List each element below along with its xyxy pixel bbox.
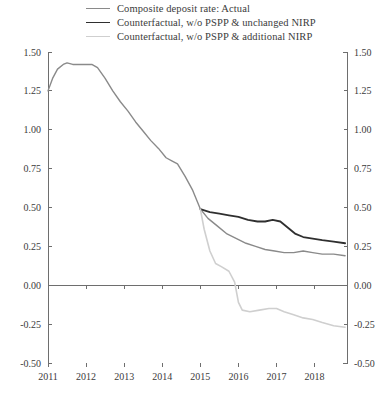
series-line-0 (48, 63, 345, 256)
y-tick-label: 0.00 (24, 280, 42, 291)
y-tick-label: 0.25 (354, 241, 372, 252)
x-tick-label: 2016 (228, 371, 248, 382)
x-tick-label: 2018 (305, 371, 325, 382)
y-tick-label: -0.50 (20, 358, 41, 369)
y-tick-label: 0.75 (354, 163, 372, 174)
line-chart-plot: 1.501.251.000.750.500.250.00-0.25-0.50 1… (0, 0, 389, 394)
y-tick-label: 1.50 (24, 47, 42, 58)
y-axis-right: 1.501.251.000.750.500.250.00-0.25-0.50 (343, 47, 375, 369)
y-tick-label: -0.50 (354, 358, 375, 369)
y-tick-label: 0.50 (354, 202, 372, 213)
series-layer (48, 63, 345, 327)
x-axis: 20112012201320142015201620172018 (38, 285, 347, 382)
y-tick-label: 1.00 (24, 124, 42, 135)
series-line-2 (200, 209, 345, 327)
x-tick-label: 2017 (267, 371, 287, 382)
y-tick-label: 0.25 (24, 241, 42, 252)
y-tick-label: 0.00 (354, 280, 372, 291)
x-tick-label: 2014 (152, 371, 172, 382)
y-tick-label: -0.25 (354, 319, 375, 330)
y-tick-label: 1.25 (24, 85, 42, 96)
chart-figure: Composite deposit rate: Actual Counterfa… (0, 0, 389, 394)
x-tick-label: 2013 (114, 371, 134, 382)
x-tick-label: 2011 (38, 371, 58, 382)
y-tick-label: 1.25 (354, 85, 372, 96)
y-tick-label: -0.25 (20, 319, 41, 330)
y-tick-label: 1.00 (354, 124, 372, 135)
y-tick-label: 1.50 (354, 47, 372, 58)
x-tick-label: 2012 (76, 371, 96, 382)
series-line-1 (200, 209, 345, 243)
x-tick-label: 2015 (190, 371, 210, 382)
y-axis-left: 1.501.251.000.750.500.250.00-0.25-0.50 (20, 47, 52, 369)
y-tick-label: 0.50 (24, 202, 42, 213)
y-tick-label: 0.75 (24, 163, 42, 174)
